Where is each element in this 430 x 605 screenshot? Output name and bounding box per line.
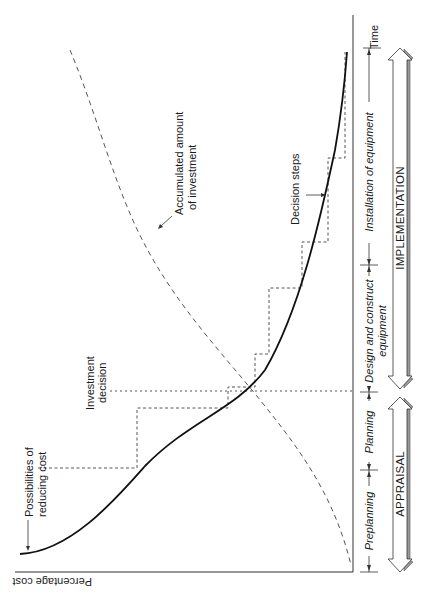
x-axis-label: Time xyxy=(368,25,380,49)
phase-installation-label: Installation of equipment xyxy=(363,111,375,231)
investment-decision-label-2: decision xyxy=(96,363,108,403)
phase-design-label-2: equipment xyxy=(376,304,388,356)
cost-investment-diagram: Percentage cost Time Possibilities of re… xyxy=(0,0,430,605)
implementation-label: IMPLEMENTATION xyxy=(394,166,406,269)
y-axis-label: Percentage cost xyxy=(13,576,93,588)
appraisal-arrow: APPRAISAL xyxy=(388,397,413,572)
implementation-arrow: IMPLEMENTATION xyxy=(388,48,413,389)
reducing-cost-label-2: reducing cost xyxy=(36,452,48,517)
accumulated-label-1: Accumulated amount xyxy=(173,112,185,215)
phase-planning-label: Planning xyxy=(363,410,375,454)
accumulated-label-2: of investment xyxy=(186,145,198,210)
accumulated-investment-curve xyxy=(70,50,351,565)
accumulated-pointer xyxy=(161,216,172,226)
phase-design-label-1: Design and construct xyxy=(363,278,375,382)
investment-decision-label-1: Investment xyxy=(84,356,96,410)
reducing-cost-arrowhead-icon xyxy=(26,546,30,551)
appraisal-label: APPRAISAL xyxy=(394,451,406,517)
reducing-cost-label-1: Possibilities of xyxy=(23,446,35,517)
phase-preplanning-label: Preplanning xyxy=(363,491,375,551)
decision-steps-label: Decision steps xyxy=(289,153,301,225)
